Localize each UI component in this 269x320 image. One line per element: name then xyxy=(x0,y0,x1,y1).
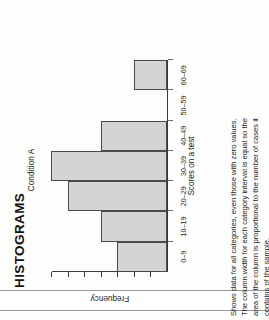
histogram-figure: Condition A 0–910–1920–2930–3940–4950–59… xyxy=(26,24,202,316)
caption-line: area of the column is proportional to th… xyxy=(250,56,261,316)
x-axis-tick xyxy=(168,210,173,211)
histogram-bar xyxy=(101,121,167,151)
x-axis-tick xyxy=(168,89,173,90)
histogram-bar xyxy=(101,211,167,241)
page-title: HISTOGRAMS xyxy=(12,193,27,288)
y-axis-tick xyxy=(68,272,69,277)
y-axis-tick xyxy=(150,272,151,277)
histogram-bar xyxy=(117,242,167,272)
y-axis-label-wrap: Frequency xyxy=(52,290,168,306)
scanned-page: HISTOGRAMS Condition A 0–910–1920–2930–3… xyxy=(0,0,269,320)
x-axis-tick xyxy=(168,59,173,60)
plot-area: 0–910–1920–2930–3940–4950–5960–69 xyxy=(52,60,168,272)
caption-line: contains of the sample. xyxy=(261,56,269,316)
chart-title: Condition A xyxy=(26,24,36,316)
x-axis-tick xyxy=(168,150,173,151)
figure-caption: Shows data for all categories, even thos… xyxy=(228,56,269,316)
x-axis-tick xyxy=(168,120,173,121)
y-axis-tick xyxy=(51,272,52,277)
y-axis-label: Frequency xyxy=(91,294,130,303)
histogram-bar xyxy=(134,60,167,90)
caption-line: The column width for each category inter… xyxy=(239,56,250,316)
x-axis-label: Scores on a test xyxy=(187,60,196,272)
y-axis-tick xyxy=(101,272,102,277)
x-axis-tick xyxy=(168,180,173,181)
histogram-bar xyxy=(51,151,167,181)
y-axis-tick xyxy=(84,272,85,277)
histogram-bar xyxy=(68,181,167,211)
y-axis-tick xyxy=(134,272,135,277)
y-axis-tick xyxy=(117,272,118,277)
x-axis-tick xyxy=(168,241,173,242)
caption-line: Shows data for all categories, even thos… xyxy=(228,56,239,316)
histogram-chart: Condition A 0–910–1920–2930–3940–4950–59… xyxy=(26,24,202,316)
